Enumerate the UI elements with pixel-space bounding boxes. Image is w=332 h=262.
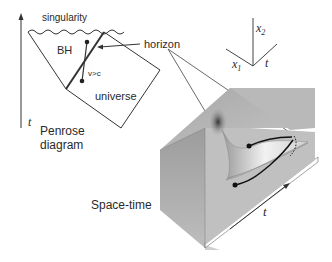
penrose-t-label: t — [28, 116, 31, 128]
worldline-v-gt-c — [82, 42, 87, 81]
penrose-time-axis — [19, 13, 24, 128]
spacetime-surface — [160, 88, 318, 250]
bh-region-outline — [28, 32, 66, 89]
penrose-title-line1: Penrose — [40, 125, 85, 137]
axis-t-label: t — [265, 57, 268, 69]
axis-x2-label: x2 — [256, 22, 265, 37]
spacetime-title: Space-time — [91, 199, 152, 211]
bh-label: BH — [57, 45, 72, 56]
spacetime-t-label: t — [263, 205, 267, 218]
axis-x1-label: x1 — [232, 58, 241, 73]
horizon-arrow — [100, 44, 140, 47]
penrose-diagram — [28, 30, 160, 128]
v-gt-c-label: v>c — [88, 70, 101, 78]
funnel-throat — [209, 108, 227, 136]
horizon-label: horizon — [144, 39, 180, 50]
singularity-label: singularity — [42, 13, 87, 23]
universe-label: universe — [95, 91, 137, 102]
penrose-title-line2: diagram — [40, 139, 83, 151]
singularity-wavy-line — [28, 30, 124, 34]
